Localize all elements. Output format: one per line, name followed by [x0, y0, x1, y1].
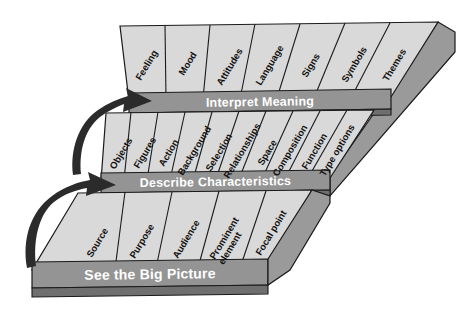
diagram-canvas: Feeling Mood Attitudes Language Signs Sy… [0, 0, 467, 314]
band-label-see-the-big-picture: See the Big Picture [32, 264, 268, 283]
